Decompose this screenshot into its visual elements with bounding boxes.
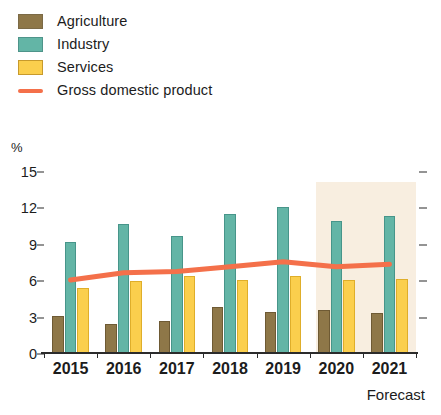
legend-swatch-industry xyxy=(18,37,43,52)
y-axis-unit-label: % xyxy=(11,140,23,155)
legend-label-industry: Industry xyxy=(57,37,109,52)
x-axis-tick-mark xyxy=(97,354,98,358)
legend-label-agriculture: Agriculture xyxy=(57,14,127,29)
x-axis-tick-mark xyxy=(203,354,204,358)
x-axis-label-2021: 2021 xyxy=(372,360,408,378)
chart-container: Agriculture Industry Services Gross dome… xyxy=(0,0,441,415)
x-axis-label-2015: 2015 xyxy=(53,360,89,378)
y-axis-tick-mark-right xyxy=(419,244,427,245)
y-axis-tick-mark xyxy=(37,244,44,245)
x-axis-tick-mark xyxy=(416,354,417,358)
forecast-annotation-label: Forecast xyxy=(367,386,425,403)
legend-item-agriculture: Agriculture xyxy=(18,10,348,33)
legend-item-industry: Industry xyxy=(18,33,348,56)
y-axis-tick-mark-right xyxy=(419,208,427,209)
gross-domestic-product-polyline xyxy=(71,262,390,280)
legend-item-gross-domestic-product: Gross domestic product xyxy=(18,79,348,102)
y-axis-tick-mark xyxy=(37,317,44,318)
y-axis-tick-mark-right xyxy=(419,172,427,173)
y-axis-tick-mark xyxy=(37,172,44,173)
x-axis-tick-mark xyxy=(257,354,258,358)
y-axis-tick-mark-right xyxy=(419,281,427,282)
y-axis-tick-mark xyxy=(37,208,44,209)
legend-swatch-services xyxy=(18,60,43,75)
x-axis-label-2018: 2018 xyxy=(212,360,248,378)
gross-domestic-product-line xyxy=(44,172,416,354)
x-axis-tick-mark xyxy=(44,354,45,358)
legend-label-gross-domestic-product: Gross domestic product xyxy=(57,83,212,98)
y-axis-tick-mark-right xyxy=(419,317,427,318)
y-axis-tick-mark xyxy=(37,281,44,282)
legend-item-services: Services xyxy=(18,56,348,79)
x-axis-tick-mark xyxy=(150,354,151,358)
x-axis-labels: 2015201620172018201920202021 xyxy=(44,360,416,382)
x-axis-label-2019: 2019 xyxy=(265,360,301,378)
x-axis-tick-mark xyxy=(363,354,364,358)
legend-swatch-agriculture xyxy=(18,14,43,29)
legend-line-marker-gross-domestic-product xyxy=(18,83,43,98)
x-axis-label-2017: 2017 xyxy=(159,360,195,378)
legend-label-services: Services xyxy=(57,60,113,75)
x-axis-label-2020: 2020 xyxy=(318,360,354,378)
x-axis-tick-mark xyxy=(310,354,311,358)
plot-area: 15129630 xyxy=(44,172,416,354)
x-axis-label-2016: 2016 xyxy=(106,360,142,378)
chart-legend: Agriculture Industry Services Gross dome… xyxy=(18,10,348,102)
